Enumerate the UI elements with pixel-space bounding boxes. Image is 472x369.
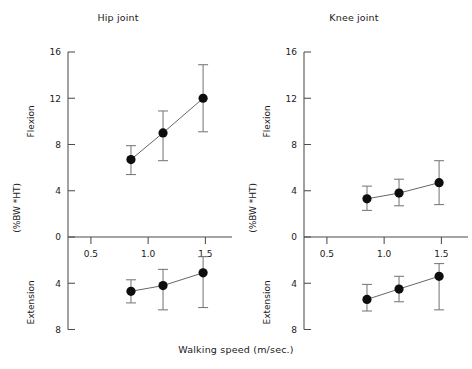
data-point — [199, 94, 208, 103]
chart-panel-knee: Knee joint 1612840480.51.01.5FlexionExte… — [236, 0, 472, 345]
x-tick-label: 1.0 — [141, 249, 156, 259]
data-point — [394, 284, 403, 293]
data-point — [394, 188, 403, 197]
series-line-flexion — [131, 98, 203, 159]
data-point — [126, 287, 135, 296]
y-tick-label: 16 — [50, 47, 62, 57]
x-tick-label: 1.5 — [198, 249, 212, 259]
flexion-region-label: Flexion — [262, 105, 272, 137]
y-axis-title: (%BW *HT) — [12, 183, 22, 233]
y-tick-label: 0 — [55, 232, 61, 242]
y-tick-label: 4 — [55, 186, 61, 196]
y-tick-label: 4 — [291, 186, 297, 196]
x-tick-label: 0.5 — [320, 249, 334, 259]
data-point — [435, 272, 444, 281]
data-point — [158, 281, 167, 290]
y-tick-label: 12 — [286, 94, 297, 104]
data-point — [126, 155, 135, 164]
data-point — [362, 194, 371, 203]
plot-area-hip: 1612840480.51.01.5FlexionExtension(%BW *… — [0, 0, 236, 345]
chart-panel-hip: Hip joint 1612840480.51.01.5FlexionExten… — [0, 0, 236, 345]
x-tick-label: 1.5 — [434, 249, 448, 259]
extension-region-label: Extension — [262, 280, 272, 324]
y-axis-title: (%BW *HT) — [248, 183, 258, 233]
y-tick-label: 12 — [50, 94, 61, 104]
data-point — [199, 268, 208, 277]
xaxis-caption: Walking speed (m/sec.) — [0, 344, 472, 355]
y-tick-label: 4 — [55, 279, 61, 289]
flexion-region-label: Flexion — [26, 105, 36, 137]
x-tick-label: 1.0 — [377, 249, 392, 259]
y-tick-label: 4 — [291, 279, 297, 289]
series-line-flexion — [367, 183, 439, 199]
x-tick-label: 0.5 — [84, 249, 98, 259]
data-point — [362, 295, 371, 304]
y-tick-label: 8 — [55, 140, 61, 150]
y-tick-label: 0 — [291, 232, 297, 242]
data-point — [435, 178, 444, 187]
series-line-extension — [131, 273, 203, 292]
plot-area-knee: 1612840480.51.01.5FlexionExtension(%BW *… — [236, 0, 472, 345]
y-tick-label: 8 — [55, 325, 61, 335]
y-tick-label: 8 — [291, 325, 297, 335]
y-tick-label: 16 — [286, 47, 298, 57]
data-point — [158, 128, 167, 137]
extension-region-label: Extension — [26, 280, 36, 324]
y-tick-label: 8 — [291, 140, 297, 150]
